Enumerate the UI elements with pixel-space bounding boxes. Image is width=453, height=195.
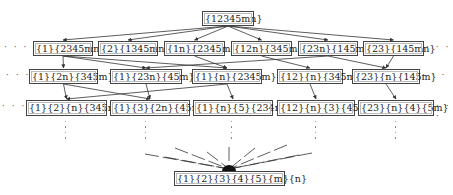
fan-ray [229, 148, 255, 169]
fan-ray [175, 148, 229, 169]
row1-node: {23n}{145m} [298, 41, 358, 56]
edge-arrow [146, 56, 328, 68]
row2-node: {1}{2n}{345m} [29, 69, 98, 84]
row2-node: {23}{n}{145m} [352, 69, 420, 84]
bottom-node: {1}{2}{3}{4}{5}{m}{n} [174, 171, 285, 186]
row2-node: {12}{n}{345m} [277, 69, 343, 84]
ellipsis-left-row3: · · · [2, 101, 26, 111]
edge-arrow [63, 56, 64, 68]
ellipsis-right-row3: · · · [436, 101, 453, 121]
edge-arrow [64, 84, 67, 99]
vertical-ellipsis [231, 121, 233, 143]
ellipsis-left-row1: · · · [4, 42, 28, 52]
fan-convergence [145, 145, 312, 171]
top-node: {12345mn} [202, 11, 254, 26]
ellipsis-right-row2: · · · [422, 70, 446, 80]
fan-ray [165, 157, 229, 169]
row3-node: {1}{n}{5}{234m} [193, 100, 273, 116]
row2-node: {1}{23n}{45m} [110, 69, 182, 84]
edge-arrow [63, 56, 146, 68]
edge-arrow [63, 56, 227, 68]
edge-arrow [386, 56, 394, 68]
row2-node: {1}{n}{2345m} [192, 69, 262, 84]
vertical-ellipsis [65, 121, 67, 143]
edge-arrow [227, 84, 233, 99]
edge-arrow [310, 84, 316, 99]
edge-arrow [64, 84, 151, 99]
edge-arrow [386, 84, 396, 99]
vertical-ellipsis [145, 121, 147, 143]
row3-node: {1}{3}{2n}{45m} [110, 100, 190, 116]
row1-node: {1n}{2345m} [164, 41, 225, 56]
edge-arrow [328, 56, 386, 68]
ellipsis-left-row2: · · · [6, 70, 30, 80]
fan-ray [229, 145, 287, 169]
edges-layer [0, 0, 453, 195]
row1-node: {2}{1345mn} [98, 41, 158, 56]
row1-node: {23}{145mn} [363, 41, 424, 56]
vertical-ellipsis [395, 121, 397, 143]
vertical-ellipsis [315, 121, 317, 143]
ellipsis-right-row1: · · · [426, 42, 450, 52]
row3-node: {23}{n}{4}{5m} [358, 100, 434, 116]
row3-node: {12}{n}{3}{45m} [277, 100, 355, 116]
lattice-diagram: {12345mn} {1}{2345mn} {2}{1345mn} {1n}{2… [0, 0, 453, 195]
row1-node: {12n}{345m} [231, 41, 292, 56]
row1-node: {1}{2345mn} [33, 41, 93, 56]
row3-node: {1}{2}{n}{345m} [26, 100, 107, 116]
